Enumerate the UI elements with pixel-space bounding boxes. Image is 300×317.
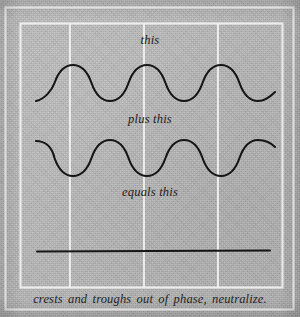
wave-label-plus-this: plus this (0, 112, 300, 127)
wave-path-this (36, 65, 275, 101)
result-flat-line (37, 251, 270, 252)
figure-caption: crests and troughs out of phase, neutral… (0, 292, 300, 307)
wave-interference-figure: this plus this equals this crests and tr… (0, 0, 300, 317)
wave-label-this: this (0, 33, 300, 48)
outer-frame (6, 8, 294, 310)
wave-path-plus-this (36, 140, 275, 176)
wave-label-equals-this: equals this (0, 185, 300, 200)
inner-frame (21, 24, 283, 288)
